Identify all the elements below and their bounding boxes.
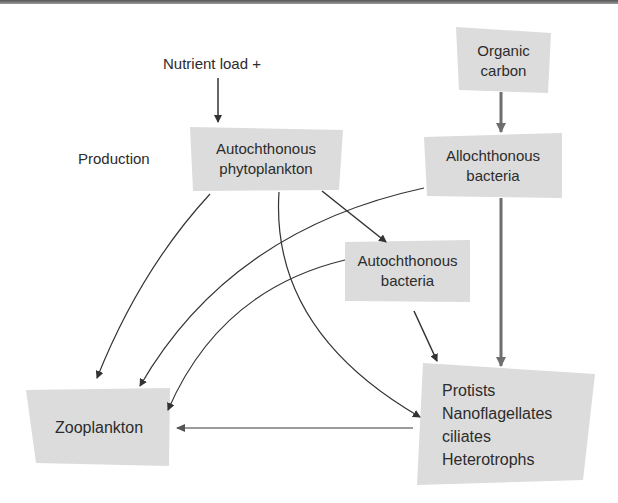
production-label: Production	[78, 149, 150, 169]
node-autochthonous-bacteria: Autochthonous bacteria	[345, 242, 470, 300]
node-allochthonous-bacteria: Allochthonous bacteria	[425, 136, 561, 196]
node-zooplankton-line-1: Zooplankton	[55, 418, 143, 438]
node-protists-line-3: ciliates	[442, 425, 491, 448]
node-allochthonous-line-2: bacteria	[466, 166, 519, 186]
node-allochthonous-line-1: Allochthonous	[446, 146, 540, 166]
node-autochthonous-phytoplankton: Autochthonous phytoplankton	[190, 130, 342, 188]
node-phytoplankton-line-1: Autochthonous	[216, 139, 316, 159]
node-protists-line-4: Heterotrophs	[442, 448, 535, 471]
arrow-autochthonous-bacteria-to-protists	[414, 311, 437, 361]
node-autochthonous-bacteria-line-2: bacteria	[381, 271, 434, 291]
arrow-autochthonous-bacteria-to-zooplankton	[168, 260, 345, 410]
node-protists-line-1: Protists	[442, 379, 495, 402]
node-zooplankton: Zooplankton	[30, 392, 168, 464]
node-protists: Protists Nanoflagellates ciliates Hetero…	[442, 380, 582, 470]
nutrient-load-label: Nutrient load +	[163, 54, 261, 74]
node-protists-line-2: Nanoflagellates	[442, 402, 552, 425]
node-organic-carbon-line-2: carbon	[481, 61, 527, 81]
node-organic-carbon: Organic carbon	[456, 32, 551, 90]
node-organic-carbon-line-1: Organic	[477, 41, 530, 61]
arrow-phytoplankton-to-zooplankton	[97, 194, 210, 378]
node-phytoplankton-line-2: phytoplankton	[219, 159, 312, 179]
node-autochthonous-bacteria-line-1: Autochthonous	[357, 251, 457, 271]
arrow-phytoplankton-to-protists	[278, 192, 420, 417]
